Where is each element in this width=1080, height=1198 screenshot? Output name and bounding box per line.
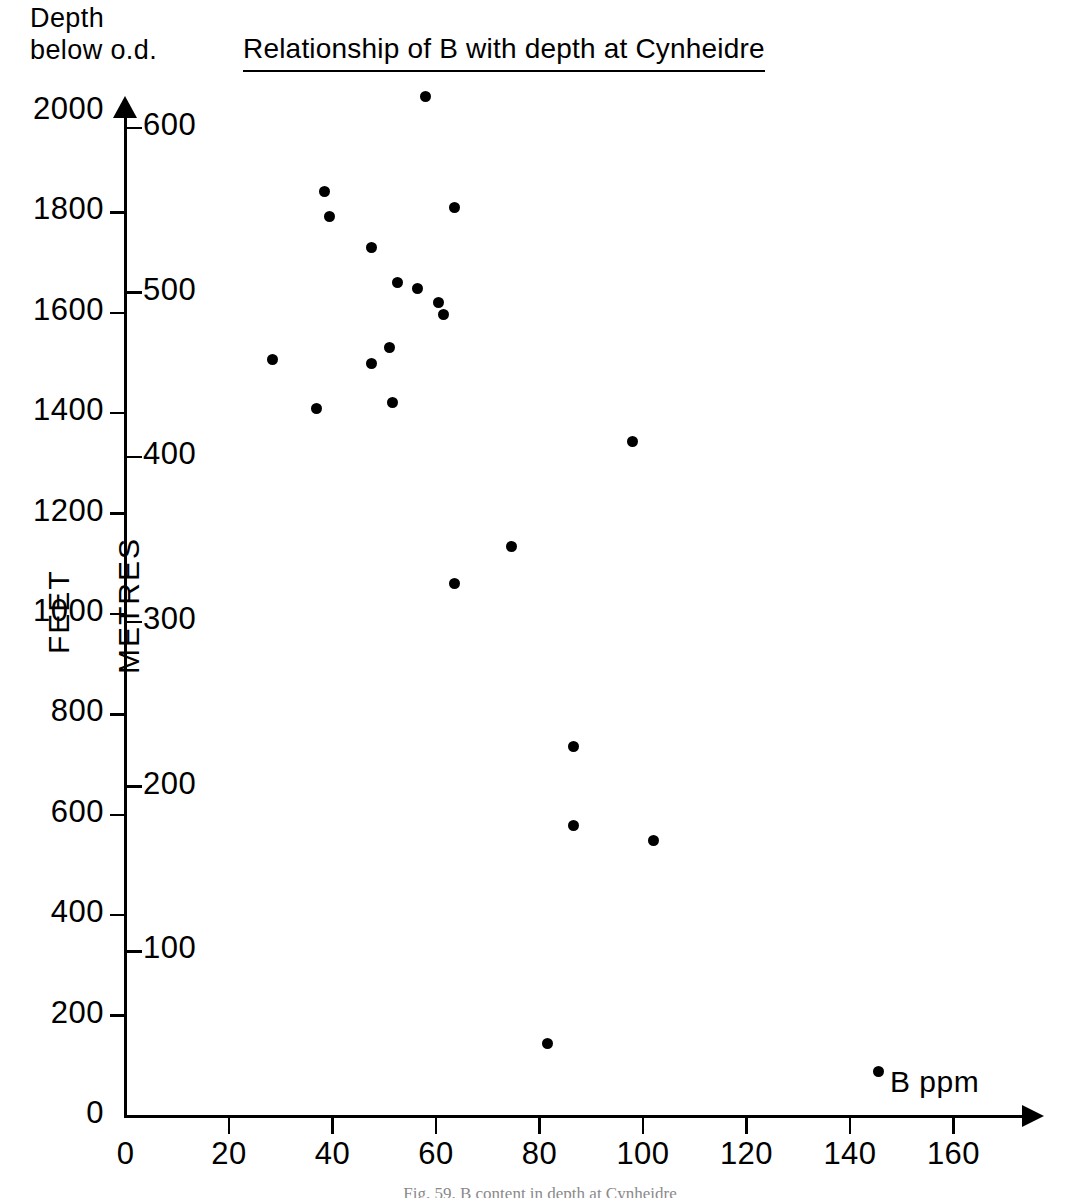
y-tick-label-feet: 1000: [0, 593, 104, 629]
x-tick-label: 0: [81, 1136, 171, 1172]
y-tick-label-feet: 1800: [0, 191, 104, 227]
scatter-point: [412, 283, 423, 294]
chart-page: Depth below o.d. Relationship of B with …: [0, 0, 1080, 1198]
scatter-point: [873, 1066, 884, 1077]
y-tick-label-feet: 800: [0, 693, 104, 729]
scatter-point: [392, 277, 403, 288]
scatter-point: [324, 211, 335, 222]
y-tick-label-feet: 1200: [0, 493, 104, 529]
y-tick-label-metres: 300: [143, 601, 196, 637]
scatter-point: [449, 578, 460, 589]
x-tick-label: 140: [805, 1136, 895, 1172]
y-tick-feet: [110, 814, 125, 817]
x-tick-label: 60: [391, 1136, 481, 1172]
x-tick-label: 80: [495, 1136, 585, 1172]
x-tick: [331, 1118, 334, 1134]
plot-area: FEET METRES B ppm 0200400600800100012001…: [0, 0, 1080, 1198]
scatter-point: [438, 309, 449, 320]
y-tick-label-metres: 600: [143, 107, 196, 143]
y-tick-label-feet: 400: [0, 894, 104, 930]
x-tick-label: 20: [184, 1136, 274, 1172]
x-tick-label: 100: [598, 1136, 688, 1172]
scatter-point: [506, 541, 517, 552]
scatter-point: [366, 242, 377, 253]
scatter-point: [542, 1038, 553, 1049]
scatter-point: [267, 354, 278, 365]
scatter-point: [627, 436, 638, 447]
y-tick-feet: [110, 211, 125, 214]
x-axis-line: [124, 1115, 1028, 1118]
x-tick: [952, 1118, 955, 1134]
scatter-point: [366, 358, 377, 369]
y-tick-feet: [110, 914, 125, 917]
y-tick-feet: [110, 512, 125, 515]
x-tick: [228, 1118, 231, 1134]
x-axis-arrow-icon: [1022, 1105, 1044, 1127]
y-tick-metres: [126, 291, 142, 294]
x-tick-label: 160: [909, 1136, 999, 1172]
scatter-point: [387, 397, 398, 408]
y-tick-feet: [110, 713, 125, 716]
x-tick: [435, 1118, 438, 1134]
y-tick-label-feet: 2000: [0, 91, 104, 127]
scatter-point: [433, 297, 444, 308]
y-tick-label-metres: 100: [143, 930, 196, 966]
y-tick-label-feet: 200: [0, 995, 104, 1031]
scatter-point: [449, 202, 460, 213]
scatter-point: [648, 835, 659, 846]
scatter-point: [568, 741, 579, 752]
y-tick-label-metres: 500: [143, 272, 196, 308]
y-tick-metres: [126, 621, 142, 624]
y-axis-arrow-icon: [113, 96, 137, 118]
y-tick-label-metres: 200: [143, 766, 196, 802]
y-tick-metres: [126, 950, 142, 953]
x-axis-label: B ppm: [890, 1065, 979, 1099]
y-tick-metres: [126, 785, 142, 788]
y-tick-feet: [110, 312, 125, 315]
x-tick: [538, 1118, 541, 1134]
x-tick-label: 120: [702, 1136, 792, 1172]
figure-caption: Fig. 59. B content in depth at Cynheidre: [0, 1184, 1080, 1198]
x-tick: [745, 1118, 748, 1134]
y-tick-feet: [110, 1014, 125, 1017]
scatter-point: [311, 403, 322, 414]
x-tick: [849, 1118, 852, 1134]
y-tick-feet: [110, 412, 125, 415]
y-tick-label-feet: 1400: [0, 392, 104, 428]
y-tick-metres: [126, 456, 142, 459]
scatter-point: [420, 91, 431, 102]
x-tick: [642, 1118, 645, 1134]
y-tick-label-feet: 0: [0, 1095, 104, 1131]
y-tick-metres: [126, 127, 142, 130]
y-axis-label-metres: METRES: [112, 537, 146, 674]
scatter-point: [319, 186, 330, 197]
y-tick-label-feet: 600: [0, 794, 104, 830]
y-tick-label-metres: 400: [143, 436, 196, 472]
y-tick-label-feet: 1600: [0, 292, 104, 328]
scatter-point: [568, 820, 579, 831]
x-tick-label: 40: [288, 1136, 378, 1172]
y-tick-feet: [110, 613, 125, 616]
scatter-point: [384, 342, 395, 353]
